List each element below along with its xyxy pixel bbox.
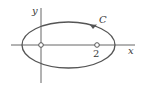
origin-point	[39, 43, 44, 48]
point-2	[95, 43, 100, 48]
tick-label-2: 2	[93, 48, 99, 59]
y-axis-label: y	[31, 5, 38, 16]
diagram-canvas: y x C 2	[0, 0, 145, 88]
curve-label: C	[99, 14, 107, 25]
ellipse-diagram: y x C 2	[0, 0, 145, 88]
x-axis-label: x	[128, 45, 134, 56]
